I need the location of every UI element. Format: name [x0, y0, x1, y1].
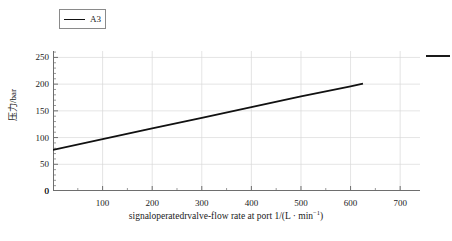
series-line-A3	[53, 84, 363, 150]
x-tick-label: 0	[19, 187, 49, 196]
x-axis-title-tail: )	[320, 211, 323, 221]
x-tick-label: 100	[96, 199, 110, 208]
x-axis-title: signaloperatedrvalve-flow rate at port 1…	[0, 212, 452, 222]
y-tick-label: 150	[19, 106, 49, 115]
y-tick-label: 50	[19, 160, 49, 169]
y-tick-label: 200	[19, 80, 49, 89]
x-tick-label: 700	[393, 199, 407, 208]
y-tick-label: 250	[19, 53, 49, 62]
plot-area	[53, 51, 420, 191]
x-tick-label: 200	[145, 199, 159, 208]
right-edge-stub-mark	[426, 55, 450, 57]
x-tick-label: 500	[294, 199, 308, 208]
x-axis-title-main: signaloperatedrvalve-flow rate at port 1…	[129, 211, 313, 221]
chart-svg	[53, 51, 420, 191]
x-tick-label: 400	[245, 199, 259, 208]
y-tick-label: 100	[19, 133, 49, 142]
chart-legend: A3	[59, 9, 106, 29]
legend-entry-a3: A3	[60, 10, 105, 28]
x-tick-label: 300	[195, 199, 209, 208]
legend-line-swatch-icon	[64, 19, 85, 20]
y-axis-title: 压力/bar	[9, 89, 18, 121]
legend-entry-label: A3	[90, 15, 101, 24]
x-tick-label: 600	[344, 199, 358, 208]
x-axis-title-exponent: −1	[313, 209, 320, 216]
